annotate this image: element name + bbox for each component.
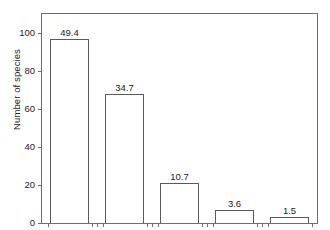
x-axis-tick-mark <box>207 223 208 227</box>
y-axis-tick-mark <box>38 147 42 148</box>
y-axis-tick-label: 100 <box>19 27 35 38</box>
y-axis-tick-label: 0 <box>30 217 35 228</box>
bar: 49.4 <box>50 39 89 223</box>
x-axis-tick-mark <box>92 223 93 227</box>
y-axis-tick-mark <box>38 185 42 186</box>
bar: 1.5 <box>270 217 309 223</box>
y-axis-tick-mark <box>38 109 42 110</box>
x-axis-tick-mark <box>103 223 104 227</box>
bar-chart: Number of species 02040608010049.434.710… <box>0 0 330 230</box>
x-axis-tick-mark <box>213 223 214 227</box>
bar-value-label: 1.5 <box>283 205 296 216</box>
y-axis-tick-mark <box>38 33 42 34</box>
bar: 34.7 <box>105 94 144 223</box>
bar-value-label: 49.4 <box>60 27 79 38</box>
bar-value-label: 10.7 <box>170 171 189 182</box>
x-axis-tick-mark <box>202 223 203 227</box>
y-axis-tick-label: 60 <box>24 103 35 114</box>
y-axis-tick-mark <box>38 71 42 72</box>
x-axis-tick-mark <box>97 223 98 227</box>
x-axis-tick-mark <box>262 223 263 227</box>
x-axis-tick-mark <box>312 223 313 227</box>
y-axis-title: Number of species <box>11 30 22 150</box>
x-axis-tick-mark <box>147 223 148 227</box>
x-axis-tick-mark <box>152 223 153 227</box>
y-axis-tick-label: 80 <box>24 65 35 76</box>
bar: 10.7 <box>160 183 199 223</box>
x-axis-tick-mark <box>268 223 269 227</box>
y-axis-tick-label: 40 <box>24 141 35 152</box>
x-axis-tick-mark <box>48 223 49 227</box>
y-axis-tick-label: 20 <box>24 179 35 190</box>
x-axis-tick-mark <box>158 223 159 227</box>
plot-area: 02040608010049.434.710.73.61.5 <box>41 13 318 224</box>
bar-value-label: 3.6 <box>228 198 241 209</box>
bar-value-label: 34.7 <box>115 82 134 93</box>
bar: 3.6 <box>215 210 254 223</box>
x-axis-tick-mark <box>257 223 258 227</box>
y-axis-tick-mark <box>38 223 42 224</box>
